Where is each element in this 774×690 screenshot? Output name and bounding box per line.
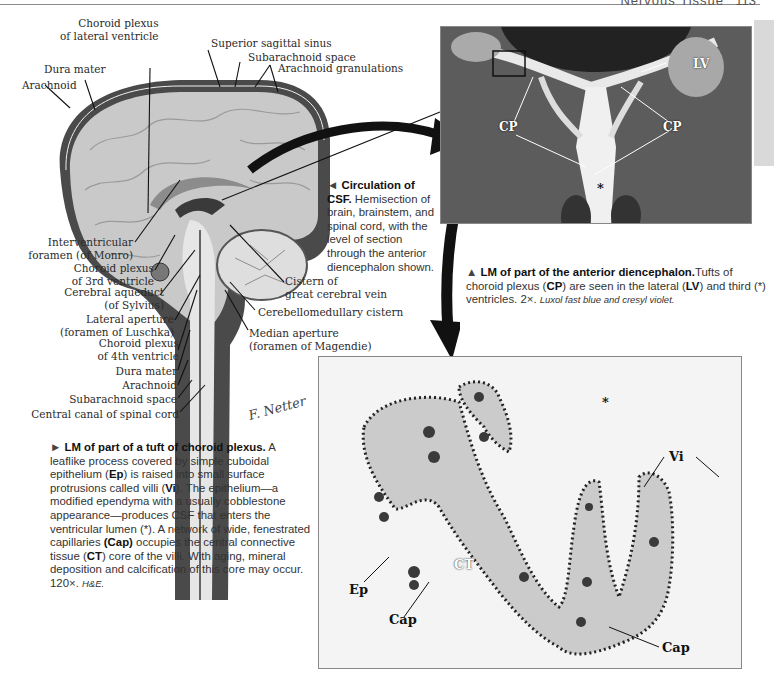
label-cap-right: Cap [662, 640, 690, 655]
caption-anterior-diencephalon: ▲ LM of part of the anterior diencephalo… [466, 266, 766, 307]
micrograph-choroid-plexus-tuft: * Vi CT Ep Cap Cap [318, 356, 742, 669]
page-number: 113 [735, 0, 756, 8]
up-triangle-icon: ▲ [466, 266, 477, 278]
label-lateral-aperture: Lateral aperture(foramen of Luschka) [60, 313, 174, 339]
svg-text:F. Netter: F. Netter [246, 393, 308, 423]
label-third-ventricle-star: * [597, 181, 604, 196]
label-choroid-plexus-4th: Choroid plexusof 4th ventricle [97, 337, 179, 363]
label-choroid-plexus-3rd: Choroid plexusof 3rd ventricle [72, 262, 154, 288]
label-dura-mater-top: Dura mater [44, 63, 105, 76]
label-cp-left: CP [499, 120, 518, 134]
label-central-canal: Central canal of spinal cord [31, 408, 179, 421]
label-ep: Ep [349, 582, 368, 597]
caption-circulation-of-csf: ◄ Circulation of CSF. Hemisection of bra… [327, 179, 437, 274]
label-arachnoid-top: Arachnoid [22, 79, 77, 92]
label-superior-sagittal-sinus: Superior sagittal sinus [211, 37, 332, 50]
label-dura-mater-bottom: Dura mater [116, 365, 177, 378]
label-choroid-plexus-lateral: Choroid plexus of lateral ventricle [60, 17, 159, 43]
label-lumen-star: * [602, 395, 609, 410]
label-lv: LV [693, 57, 709, 71]
chapter-thumb-tab [754, 20, 774, 166]
label-ct: CT [454, 557, 474, 572]
label-arachnoid-granulations: Arachnoid granulations [278, 62, 403, 75]
section-title: Nervous Tissue [620, 0, 724, 8]
label-cerebral-aqueduct: Cerebral aqueduct(of Sylvius) [64, 286, 164, 312]
label-cistern-great-cerebral-vein: Cistern ofgreat cerebral vein [285, 275, 387, 301]
label-interventricular-foramen: Interventricularforamen (of Monro) [28, 236, 133, 262]
label-median-aperture: Median aperture(foramen of Magendie) [249, 327, 372, 353]
caption-choroid-plexus-tuft: ► LM of part of a tuft of choroid plexus… [50, 441, 312, 591]
left-triangle-icon: ◄ [327, 179, 338, 191]
label-subarachnoid-space-bottom: Subarachnoid space [69, 393, 177, 406]
label-arachnoid-bottom: Arachnoid [122, 379, 177, 392]
choroid-plexus-tissue-image [319, 357, 741, 668]
micrograph-anterior-diencephalon: LV CP CP * [440, 26, 752, 224]
right-triangle-icon: ► [50, 441, 61, 453]
label-cerebellomedullary-cistern: Cerebellomedullary cistern [258, 306, 403, 319]
label-cap-left: Cap [389, 612, 417, 627]
label-vi: Vi [669, 449, 684, 464]
label-cp-right: CP [663, 120, 682, 134]
